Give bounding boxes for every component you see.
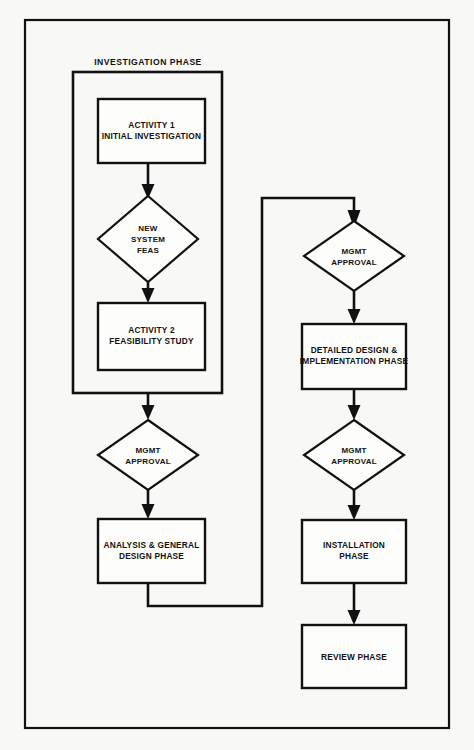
mgmt-approval-3-label-line1: MGMT <box>341 446 366 455</box>
new-system-feas-label-line1: NEW <box>138 224 158 233</box>
connector-mgmt1-to-analysis <box>142 490 155 519</box>
review-phase-label-line1: REVIEW PHASE <box>321 652 387 662</box>
node-mgmt-approval-2[interactable]: MGMT APPROVAL <box>304 221 404 291</box>
analysis-general-design-label-line1: ANALYSIS & GENERAL <box>104 540 200 550</box>
activity1-label-line1: ACTIVITY 1 <box>128 120 175 130</box>
installation-phase-label-line2: PHASE <box>339 551 369 561</box>
new-system-feas-label-line3: FEAS <box>137 246 160 255</box>
node-analysis-general-design[interactable]: ANALYSIS & GENERAL DESIGN PHASE <box>98 519 205 583</box>
connector-mgmt2-to-detailed <box>348 291 361 324</box>
detailed-design-implementation-label-line2: IMPLEMENTATION PHASE <box>300 356 409 366</box>
mgmt-approval-3-label-line2: APPROVAL <box>331 457 376 466</box>
activity2-label-line2: FEASIBILITY STUDY <box>109 336 194 346</box>
new-system-feas-label-line2: SYSTEM <box>131 235 165 244</box>
node-new-system-feas[interactable]: NEW SYSTEM FEAS <box>98 196 198 282</box>
mgmt-approval-3-diamond[interactable] <box>304 420 404 490</box>
node-review-phase[interactable]: REVIEW PHASE <box>302 625 406 688</box>
flowchart-page: INVESTIGATION PHASE ACTIVITY 1 INITIAL I… <box>0 0 474 750</box>
mgmt-approval-2-label-line2: APPROVAL <box>331 258 376 267</box>
node-detailed-design-implementation[interactable]: DETAILED DESIGN & IMPLEMENTATION PHASE <box>300 324 409 389</box>
mgmt-approval-2-diamond[interactable] <box>304 221 404 291</box>
node-activity1[interactable]: ACTIVITY 1 INITIAL INVESTIGATION <box>98 99 205 163</box>
analysis-general-design-label-line2: DESIGN PHASE <box>119 551 184 561</box>
connector-activity1-to-feas <box>142 163 155 199</box>
mgmt-approval-2-label-line1: MGMT <box>341 247 366 256</box>
node-mgmt-approval-1[interactable]: MGMT APPROVAL <box>98 420 198 490</box>
node-installation-phase[interactable]: INSTALLATION PHASE <box>302 520 406 583</box>
connector-detailed-to-mgmt3 <box>348 389 361 420</box>
activity2-label-line1: ACTIVITY 2 <box>128 325 175 335</box>
node-mgmt-approval-3[interactable]: MGMT APPROVAL <box>304 420 404 490</box>
mgmt-approval-1-label-line2: APPROVAL <box>125 457 170 466</box>
connector-mgmt3-to-installation <box>348 490 361 520</box>
detailed-design-implementation-label-line1: DETAILED DESIGN & <box>311 345 398 355</box>
mgmt-approval-1-label-line1: MGMT <box>135 446 160 455</box>
mgmt-approval-1-diamond[interactable] <box>98 420 198 490</box>
node-activity2[interactable]: ACTIVITY 2 FEASIBILITY STUDY <box>98 303 205 370</box>
connector-feas-to-activity2 <box>142 282 155 303</box>
flowchart-canvas: INVESTIGATION PHASE ACTIVITY 1 INITIAL I… <box>0 0 474 750</box>
connector-installation-to-review <box>348 583 361 625</box>
connector-phase-to-mgmt1 <box>142 393 155 420</box>
installation-phase-label-line1: INSTALLATION <box>323 540 385 550</box>
activity1-label-line2: INITIAL INVESTIGATION <box>102 131 201 141</box>
investigation-phase-label: INVESTIGATION PHASE <box>94 57 202 67</box>
